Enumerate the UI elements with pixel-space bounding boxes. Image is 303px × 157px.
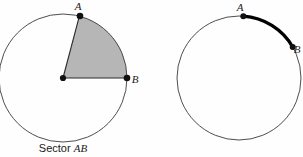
- sector-point-b-dot: [124, 75, 131, 82]
- figure-canvas: A B Sector AB A B: [0, 0, 303, 157]
- sector-caption-emphasis: AB: [73, 142, 88, 154]
- sector-caption: Sector AB: [39, 142, 88, 154]
- sector-shaded-region: [63, 16, 127, 78]
- arc-point-a-label: A: [236, 1, 244, 13]
- sector-point-a-label: A: [74, 0, 82, 12]
- sector-point-a-dot: [77, 13, 84, 20]
- sector-caption-prefix: Sector: [39, 142, 74, 154]
- sector-diagram: A B Sector AB: [0, 0, 139, 154]
- arc-point-b-label: B: [294, 43, 301, 55]
- sector-point-b-label: B: [132, 73, 139, 85]
- arc-highlighted-segment: [243, 16, 292, 47]
- geometry-figure: A B Sector AB A B: [0, 0, 303, 157]
- sector-center-point: [60, 75, 66, 81]
- arc-point-a-dot: [240, 13, 246, 19]
- arc-diagram: A B: [177, 1, 301, 140]
